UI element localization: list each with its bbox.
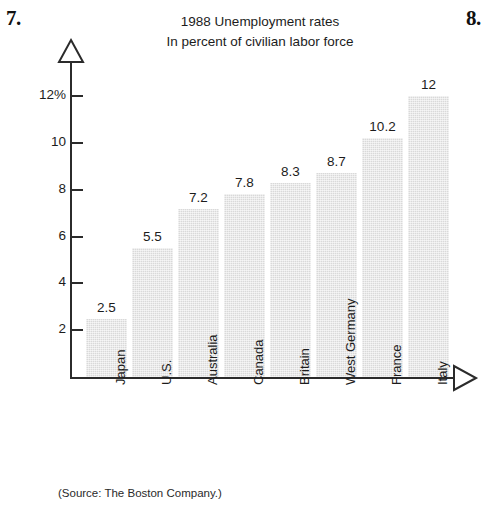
x-axis-category-label: Canada <box>251 339 266 385</box>
bar <box>362 138 403 377</box>
bar-value-label: 12 <box>401 77 456 92</box>
bar-value-label: 5.5 <box>125 229 180 244</box>
x-axis-category-label: Britain <box>297 348 312 385</box>
bar-value-label: 8.7 <box>309 154 364 169</box>
bar <box>132 248 173 377</box>
source-note: (Source: The Boston Company.) <box>58 487 222 499</box>
bar-value-label: 7.2 <box>171 190 226 205</box>
x-axis-category-label: West Germany <box>343 299 358 385</box>
x-axis-category-label: France <box>389 345 404 385</box>
bar <box>408 96 449 377</box>
bar-value-label: 10.2 <box>355 119 410 134</box>
x-axis-category-label: U.S. <box>159 360 174 385</box>
bars-layer: 2.55.57.27.88.38.710.212 <box>0 0 503 377</box>
bar-chart: 24681012% 2.55.57.27.88.38.710.212 Japan… <box>0 0 503 512</box>
x-axis-category-label: Australia <box>205 334 220 385</box>
x-axis-category-label: Italy <box>435 361 450 385</box>
x-axis-category-label: Japan <box>113 350 128 385</box>
bar-value-label: 2.5 <box>79 300 134 315</box>
